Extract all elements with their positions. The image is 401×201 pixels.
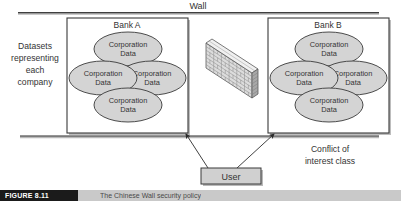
arrow-user-to-bank-a — [186, 134, 208, 168]
bank-a-dataset-4: Corporation Data — [94, 88, 162, 122]
right-caption-line-1: Conflict of — [311, 144, 350, 154]
bank-b-dataset-1-line2: Data — [321, 49, 338, 58]
user-label: User — [221, 172, 240, 182]
brick-wall-icon — [206, 39, 258, 98]
bank-b-dataset-2-line2: Data — [296, 78, 313, 87]
left-caption: Datasets representing each company — [11, 41, 59, 87]
bottom-boundary-line — [20, 136, 379, 137]
figure-caption-label: FIGURE 8.11 — [5, 192, 49, 201]
bank-b-dataset-2-line1: Corporation — [285, 69, 324, 78]
right-caption: Conflict of interest class — [305, 144, 355, 166]
user-node[interactable]: User — [201, 168, 263, 186]
bank-b-dataset-4: Corporation Data — [295, 88, 363, 122]
bank-a-dataset-4-line2: Data — [120, 105, 137, 114]
left-caption-line-4: company — [18, 77, 54, 87]
figure-caption-text: The Chinese Wall security policy — [100, 192, 201, 201]
bank-a-dataset-2-line1: Corporation — [84, 69, 123, 78]
bank-a-dataset-3-line1: Corporation — [133, 69, 172, 78]
left-caption-line-2: representing — [11, 53, 59, 63]
figure-container: Wall Bank A Corporation Data Corporation… — [0, 0, 401, 201]
bank-a-group: Bank A Corporation Data Corporation Data… — [67, 18, 190, 135]
user-arrows — [186, 134, 274, 168]
arrow-user-to-bank-b — [237, 134, 274, 168]
bank-b-dataset-4-line2: Data — [321, 105, 338, 114]
bank-b-title: Bank B — [314, 20, 342, 30]
bank-a-dataset-1-line1: Corporation — [109, 40, 148, 49]
left-caption-line-1: Datasets — [18, 41, 52, 51]
bank-a-dataset-1-line2: Data — [120, 49, 137, 58]
left-caption-line-3: each — [26, 65, 45, 75]
chinese-wall-diagram: Wall Bank A Corporation Data Corporation… — [0, 0, 401, 201]
bank-a-dataset-3-line2: Data — [144, 78, 161, 87]
bank-b-group: Bank B Corporation Data Corporation Data… — [268, 18, 391, 135]
bank-b-dataset-3-line2: Data — [345, 78, 362, 87]
bank-b-dataset-4-line1: Corporation — [310, 96, 349, 105]
right-caption-line-2: interest class — [305, 156, 355, 166]
bank-b-dataset-3-line1: Corporation — [334, 69, 373, 78]
bank-a-dataset-2-line2: Data — [95, 78, 112, 87]
wall-label: Wall — [189, 1, 206, 11]
top-boundary-line — [18, 13, 379, 14]
bank-a-title: Bank A — [114, 20, 141, 30]
bank-b-dataset-1-line1: Corporation — [310, 40, 349, 49]
bank-a-dataset-4-line1: Corporation — [109, 96, 148, 105]
